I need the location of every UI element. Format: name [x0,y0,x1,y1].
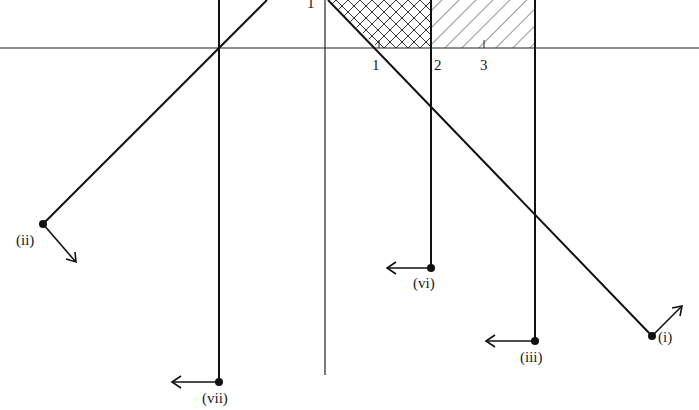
x-tick-label-3: 3 [480,58,488,73]
single-hatched-region [431,0,535,48]
label-i: (i) [658,330,672,345]
x-tick-label-1: 1 [372,58,380,73]
label-vii: (vii) [202,391,228,406]
line-ii [43,0,267,224]
diagram-svg [0,0,699,410]
label-vi: (vi) [413,276,435,291]
diagram-canvas: 1 1 2 3 (i) (ii) (iii) (vi) (vii) [0,0,699,410]
x-tick-label-2: 2 [434,58,442,73]
y-tick-label: 1 [307,0,315,11]
label-iii: (iii) [520,350,543,365]
label-ii: (ii) [16,233,34,248]
arrow-ii-shaft [43,224,75,261]
line-i [328,0,652,336]
